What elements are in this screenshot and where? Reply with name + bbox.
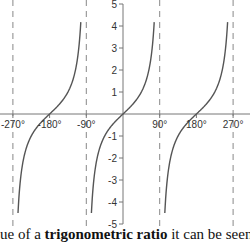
axes — [0, 4, 250, 224]
x-tick-label: -90° — [77, 119, 95, 130]
y-tick-label: 5 — [111, 0, 117, 10]
y-tick-label: -2 — [108, 153, 117, 164]
y-tick-label: -3 — [108, 175, 117, 186]
tangent-graph: 54321-1-2-3-4-5-270°-180°-90°90°180°270° — [0, 0, 250, 228]
caption-prefix: ue of a — [0, 226, 45, 242]
y-tick-label: 4 — [111, 21, 117, 32]
x-tick-label: 90° — [152, 119, 167, 130]
x-tick-label: 180° — [186, 119, 207, 130]
x-tick-label: -180° — [38, 119, 62, 130]
caption-bold-term: trigonometric ratio — [45, 226, 168, 242]
y-tick-label: -1 — [108, 131, 117, 142]
caption-text: ue of a trigonometric ratio it can be se… — [0, 226, 250, 243]
y-tick-label: 3 — [111, 43, 117, 54]
x-tick-label: 270° — [223, 119, 244, 130]
caption-suffix: it can be seen — [167, 226, 250, 242]
y-tick-label: -4 — [108, 197, 117, 208]
y-tick-label: 2 — [111, 65, 117, 76]
x-tick-label: -270° — [1, 119, 25, 130]
y-tick-label: 1 — [111, 87, 117, 98]
